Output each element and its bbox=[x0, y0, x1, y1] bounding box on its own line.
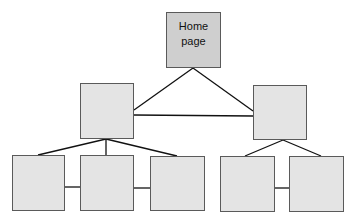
edge-midright-bottom5 bbox=[283, 140, 321, 156]
node-label: Home bbox=[179, 19, 208, 34]
mid-right-node bbox=[253, 85, 307, 140]
bottom-node-1 bbox=[12, 155, 65, 211]
node-label: page bbox=[181, 34, 205, 49]
bottom-node-4 bbox=[220, 156, 275, 212]
bottom-node-5 bbox=[289, 156, 344, 212]
mid-left-node bbox=[80, 83, 134, 139]
edge-midright-bottom4 bbox=[245, 140, 283, 156]
bottom-node-2 bbox=[80, 155, 134, 211]
edge-home-midright bbox=[193, 68, 253, 111]
edge-home-midleft bbox=[134, 68, 193, 110]
home-page-node: Home page bbox=[166, 12, 221, 68]
bottom-node-3 bbox=[150, 156, 205, 211]
edge-midleft-bottom3 bbox=[106, 139, 177, 156]
edge-midleft-bottom1 bbox=[38, 139, 106, 155]
edge-midleft-midright bbox=[134, 115, 253, 116]
